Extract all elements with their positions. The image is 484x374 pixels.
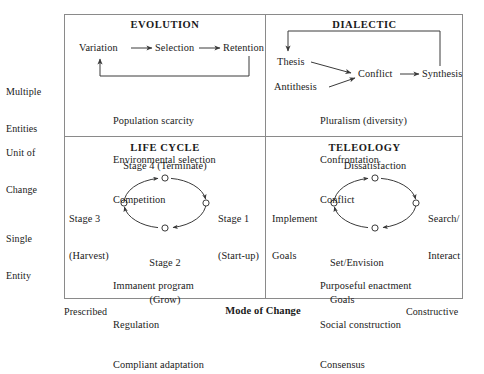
life-cycle-attribute-3: Compliant adaptation [113, 358, 204, 371]
x-axis-left-label: Prescribed [64, 306, 107, 318]
teleology-dissatisfaction-label: Dissatisfaction [315, 160, 435, 172]
y-axis-title-line1: Unit of [6, 147, 37, 159]
y-axis-bottom-label-line2: Entity [6, 270, 32, 282]
teleology-implement-goals-label: Implement Goals [272, 189, 318, 286]
life-cycle-attribute-1: Immanent program [113, 279, 204, 292]
dialectic-node-synthesis: Synthesis [422, 68, 462, 80]
y-axis-bottom-label-line1: Single [6, 233, 32, 245]
life-cycle-stage-4-label: Stage 4 (Terminate) [95, 160, 235, 172]
dialectic-node-antithesis: Antithesis [274, 81, 317, 93]
evolution-node-variation: Variation [79, 42, 118, 54]
y-axis-top-label-line1: Multiple [6, 86, 41, 98]
quadrant-title-life-cycle: LIFE CYCLE [66, 142, 264, 154]
dialectic-node-thesis: Thesis [277, 56, 304, 68]
dialectic-attribute-3: Conflict [320, 193, 407, 206]
x-axis-title: Mode of Change [164, 305, 362, 317]
life-cycle-attribute-2: Regulation [113, 318, 204, 331]
quadrant-title-teleology: TELEOLOGY [267, 142, 462, 154]
teleology-attribute-2: Social construction [320, 318, 412, 331]
life-cycle-stage-3-line1: Stage 3 [69, 213, 109, 225]
y-axis-bottom-label: Single Entity [6, 209, 32, 307]
life-cycle-stage-3-label: Stage 3 (Harvest) [69, 189, 109, 286]
life-cycle-stage-1-label: Stage 1 (Start-up) [218, 189, 259, 286]
life-cycle-stage-1-line1: Stage 1 [218, 213, 259, 225]
evolution-node-selection: Selection [155, 42, 194, 54]
quadrant-title-dialectic: DIALECTIC [267, 19, 462, 31]
teleology-implement-goals-line2: Goals [272, 250, 318, 262]
quadrant-title-evolution: EVOLUTION [66, 19, 264, 31]
cycle-node-right [413, 200, 419, 206]
teleology-search-interact-label: Search/ Interact [428, 189, 460, 286]
evolution-attribute-1: Population scarcity [113, 114, 216, 127]
life-cycle-stage-3-line2: (Harvest) [69, 250, 109, 262]
evolution-attribute-3: Competition [113, 193, 216, 206]
y-axis-title: Unit of Change [6, 123, 37, 221]
dialectic-attribute-1: Pluralism (diversity) [320, 114, 407, 127]
dialectic-node-conflict: Conflict [358, 68, 393, 80]
teleology-implement-goals-line1: Implement [272, 213, 318, 225]
teleology-search-interact-line1: Search/ [428, 213, 460, 225]
life-cycle-stage-1-line2: (Start-up) [218, 250, 259, 262]
x-axis-right-label: Constructive [406, 306, 458, 318]
evolution-node-retention: Retention [223, 42, 264, 54]
teleology-attribute-3: Consensus [320, 358, 412, 371]
teleology-attribute-1: Purposeful enactment [320, 279, 412, 292]
teleology-search-interact-line2: Interact [428, 250, 460, 262]
y-axis-title-line2: Change [6, 184, 37, 196]
